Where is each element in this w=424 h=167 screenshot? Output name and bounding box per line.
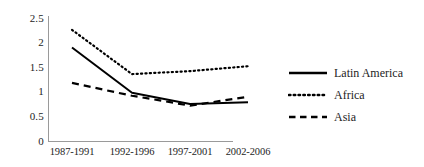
x-tick-label: 1997-2001: [159, 146, 221, 158]
x-tick-label: 1987-1991: [41, 146, 103, 158]
x-tick-label: 1992-1996: [101, 146, 163, 158]
legend-label: Africa: [334, 89, 365, 101]
chart-legend: Latin AmericaAfricaAsia: [288, 62, 420, 128]
x-tick-label: 2002-2006: [217, 146, 279, 158]
dotted-line-swatch: [288, 89, 328, 101]
series-line: [72, 48, 248, 105]
legend-label: Latin America: [334, 67, 403, 79]
solid-line-swatch: [288, 67, 328, 79]
legend-label: Asia: [334, 111, 356, 123]
legend-item: Latin America: [288, 62, 420, 84]
legend-item: Asia: [288, 106, 420, 128]
dashed-line-swatch: [288, 111, 328, 123]
legend-item: Africa: [288, 84, 420, 106]
line-chart: 2.521.510.50 1987-19911992-19961997-2001…: [0, 0, 424, 167]
